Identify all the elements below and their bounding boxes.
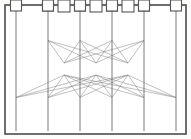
node-group-layer2 bbox=[58, 0, 134, 12]
graph-node bbox=[90, 0, 102, 12]
network-diagram bbox=[0, 0, 191, 139]
graph-node bbox=[139, 0, 150, 11]
graph-node bbox=[43, 0, 54, 11]
graph-node bbox=[171, 0, 182, 11]
diagram-canvas bbox=[0, 0, 191, 139]
graph-node bbox=[58, 0, 70, 12]
diagram-frame bbox=[5, 5, 186, 134]
graph-node bbox=[75, 0, 86, 11]
frame-border bbox=[5, 5, 186, 134]
graph-node bbox=[107, 0, 118, 11]
graph-node bbox=[122, 0, 134, 12]
graph-node bbox=[11, 0, 22, 11]
